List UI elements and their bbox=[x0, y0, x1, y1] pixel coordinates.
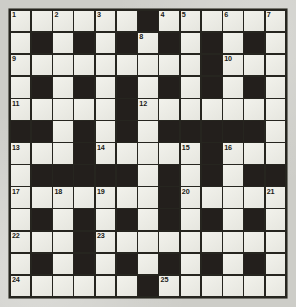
grid-cell[interactable]: 12 bbox=[138, 99, 158, 119]
grid-cell[interactable] bbox=[181, 209, 201, 229]
grid-cell[interactable] bbox=[266, 33, 286, 53]
grid-cell[interactable]: 2 bbox=[53, 11, 73, 31]
grid-cell[interactable] bbox=[181, 33, 201, 53]
grid-cell[interactable] bbox=[181, 254, 201, 274]
grid-cell[interactable] bbox=[96, 55, 116, 75]
grid-cell[interactable] bbox=[96, 276, 116, 296]
grid-cell[interactable] bbox=[181, 99, 201, 119]
grid-cell[interactable] bbox=[202, 11, 222, 31]
grid-cell[interactable] bbox=[117, 11, 137, 31]
grid-cell[interactable]: 13 bbox=[11, 143, 31, 163]
grid-cell[interactable] bbox=[117, 187, 137, 207]
grid-cell[interactable] bbox=[138, 209, 158, 229]
grid-cell[interactable]: 6 bbox=[223, 11, 243, 31]
grid-cell[interactable]: 8 bbox=[138, 33, 158, 53]
grid-cell[interactable]: 25 bbox=[159, 276, 179, 296]
grid-cell[interactable] bbox=[53, 276, 73, 296]
grid-cell[interactable]: 11 bbox=[11, 99, 31, 119]
grid-cell[interactable] bbox=[11, 254, 31, 274]
grid-cell[interactable] bbox=[32, 187, 52, 207]
grid-cell[interactable] bbox=[96, 121, 116, 141]
grid-cell[interactable] bbox=[138, 187, 158, 207]
grid-cell[interactable] bbox=[138, 77, 158, 97]
grid-cell[interactable] bbox=[181, 165, 201, 185]
grid-cell[interactable] bbox=[223, 232, 243, 252]
grid-cell[interactable]: 5 bbox=[181, 11, 201, 31]
grid-cell[interactable] bbox=[266, 121, 286, 141]
grid-cell[interactable] bbox=[202, 99, 222, 119]
grid-cell[interactable] bbox=[96, 77, 116, 97]
grid-cell[interactable] bbox=[244, 232, 264, 252]
grid-cell[interactable] bbox=[32, 143, 52, 163]
grid-cell[interactable] bbox=[181, 232, 201, 252]
grid-cell[interactable] bbox=[96, 99, 116, 119]
grid-cell[interactable]: 7 bbox=[266, 11, 286, 31]
grid-cell[interactable] bbox=[266, 276, 286, 296]
grid-cell[interactable] bbox=[11, 209, 31, 229]
grid-cell[interactable] bbox=[32, 55, 52, 75]
grid-cell[interactable]: 9 bbox=[11, 55, 31, 75]
grid-cell[interactable] bbox=[96, 254, 116, 274]
grid-cell[interactable] bbox=[74, 99, 94, 119]
grid-cell[interactable] bbox=[181, 77, 201, 97]
grid-cell[interactable] bbox=[202, 187, 222, 207]
grid-cell[interactable] bbox=[244, 187, 264, 207]
grid-cell[interactable]: 20 bbox=[181, 187, 201, 207]
grid-cell[interactable] bbox=[117, 276, 137, 296]
grid-cell[interactable] bbox=[53, 143, 73, 163]
grid-cell[interactable] bbox=[244, 99, 264, 119]
grid-cell[interactable] bbox=[266, 232, 286, 252]
grid-cell[interactable] bbox=[53, 209, 73, 229]
grid-cell[interactable] bbox=[223, 276, 243, 296]
grid-cell[interactable] bbox=[74, 276, 94, 296]
grid-cell[interactable] bbox=[138, 165, 158, 185]
grid-cell[interactable]: 18 bbox=[53, 187, 73, 207]
grid-cell[interactable] bbox=[138, 232, 158, 252]
grid-cell[interactable] bbox=[223, 187, 243, 207]
grid-cell[interactable] bbox=[53, 232, 73, 252]
grid-cell[interactable] bbox=[266, 209, 286, 229]
grid-cell[interactable] bbox=[53, 121, 73, 141]
grid-cell[interactable] bbox=[266, 254, 286, 274]
grid-cell[interactable] bbox=[138, 121, 158, 141]
grid-cell[interactable] bbox=[266, 77, 286, 97]
grid-cell[interactable] bbox=[266, 55, 286, 75]
grid-cell[interactable]: 19 bbox=[96, 187, 116, 207]
grid-cell[interactable] bbox=[223, 99, 243, 119]
grid-cell[interactable] bbox=[223, 33, 243, 53]
grid-cell[interactable] bbox=[223, 165, 243, 185]
grid-cell[interactable] bbox=[159, 232, 179, 252]
grid-cell[interactable] bbox=[244, 55, 264, 75]
grid-cell[interactable] bbox=[181, 55, 201, 75]
grid-cell[interactable]: 23 bbox=[96, 232, 116, 252]
grid-cell[interactable] bbox=[53, 99, 73, 119]
grid-cell[interactable] bbox=[117, 232, 137, 252]
grid-cell[interactable] bbox=[74, 55, 94, 75]
grid-cell[interactable]: 16 bbox=[223, 143, 243, 163]
grid-cell[interactable] bbox=[32, 99, 52, 119]
grid-cell[interactable] bbox=[53, 254, 73, 274]
grid-cell[interactable] bbox=[266, 143, 286, 163]
grid-cell[interactable]: 10 bbox=[223, 55, 243, 75]
grid-cell[interactable] bbox=[244, 11, 264, 31]
grid-cell[interactable] bbox=[244, 276, 264, 296]
grid-cell[interactable] bbox=[138, 254, 158, 274]
grid-cell[interactable] bbox=[159, 99, 179, 119]
grid-cell[interactable] bbox=[11, 77, 31, 97]
grid-cell[interactable]: 24 bbox=[11, 276, 31, 296]
grid-cell[interactable] bbox=[266, 99, 286, 119]
grid-cell[interactable] bbox=[74, 187, 94, 207]
grid-cell[interactable] bbox=[96, 209, 116, 229]
grid-cell[interactable] bbox=[11, 165, 31, 185]
grid-cell[interactable] bbox=[202, 276, 222, 296]
grid-cell[interactable] bbox=[181, 276, 201, 296]
grid-cell[interactable] bbox=[138, 55, 158, 75]
crossword-grid[interactable]: 1234567891011121314151617181920212223242… bbox=[9, 9, 287, 298]
grid-cell[interactable]: 17 bbox=[11, 187, 31, 207]
grid-cell[interactable] bbox=[32, 11, 52, 31]
grid-cell[interactable] bbox=[159, 143, 179, 163]
grid-cell[interactable] bbox=[32, 276, 52, 296]
grid-cell[interactable] bbox=[53, 55, 73, 75]
grid-cell[interactable] bbox=[117, 143, 137, 163]
grid-cell[interactable]: 14 bbox=[96, 143, 116, 163]
